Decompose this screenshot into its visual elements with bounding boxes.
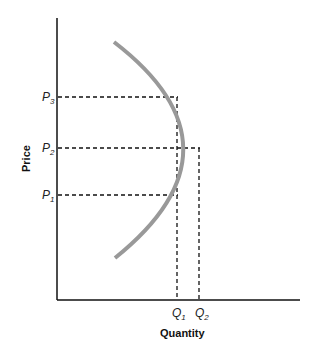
q2-label: Q2 bbox=[195, 306, 209, 322]
supply-curve-diagram: P3 P2 P1 Q1 Q2 Quantity Price bbox=[0, 0, 315, 355]
supply-curve bbox=[114, 42, 183, 258]
p1-label: P1 bbox=[42, 188, 54, 204]
p3-label: P3 bbox=[42, 90, 55, 106]
q1-label: Q1 bbox=[172, 306, 186, 322]
p2-label: P2 bbox=[42, 141, 55, 157]
x-axis-title: Quantity bbox=[160, 327, 205, 339]
y-axis-title: Price bbox=[20, 145, 32, 172]
